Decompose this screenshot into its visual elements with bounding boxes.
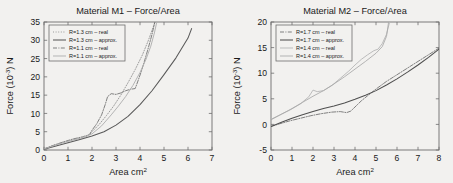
x-tick-label: 2 xyxy=(90,153,95,163)
y-tick-label: 20 xyxy=(257,17,267,27)
y-tick-label: 0 xyxy=(262,120,267,130)
plot-area-material-m2: Material M2 – Force/Area012345678-505101… xyxy=(227,0,453,183)
chart-title: Material M1 – Force/Area xyxy=(76,6,181,16)
y-tick-label: 5 xyxy=(35,127,40,137)
x-tick-label: 2 xyxy=(311,153,316,163)
x-tick-label: 0 xyxy=(269,153,274,163)
y-tick-label: 30 xyxy=(30,35,40,45)
x-tick-label: 1 xyxy=(290,153,295,163)
x-tick-label: 3 xyxy=(114,153,119,163)
y-tick-label: 0 xyxy=(35,145,40,155)
plot-area-material-m1: Material M1 – Force/Area0123456705101520… xyxy=(0,0,226,183)
y-tick-label: 35 xyxy=(30,17,40,27)
chart-material-m1: Material M1 – Force/Area0123456705101520… xyxy=(0,0,226,183)
legend-label: R=1.7 cm – approx. xyxy=(296,37,345,43)
y-tick-label: 20 xyxy=(30,72,40,82)
legend-label: R=1.7 cm – real xyxy=(296,29,335,35)
x-tick-label: 5 xyxy=(374,153,379,163)
y-tick-label: 10 xyxy=(257,68,267,78)
x-tick-label: 7 xyxy=(416,153,421,163)
y-axis-label: Force (10-3) N xyxy=(4,57,15,114)
legend-label: R=1.1 cm – real xyxy=(69,45,108,51)
legend-label: R=1.4 cm – real xyxy=(296,45,335,51)
x-tick-label: 4 xyxy=(353,153,358,163)
y-tick-label: 25 xyxy=(30,54,40,64)
x-tick-label: 6 xyxy=(186,153,191,163)
y-tick-label: 15 xyxy=(257,43,267,53)
y-tick-label: 5 xyxy=(262,94,267,104)
x-axis-label: Area cm2 xyxy=(109,166,147,177)
chart-title: Material M2 – Force/Area xyxy=(303,6,408,16)
x-tick-label: 0 xyxy=(42,153,47,163)
y-tick-label: -5 xyxy=(259,145,267,155)
legend-label: R=1.1 cm – approx. xyxy=(69,53,118,59)
legend-label: R=1.3 cm – real xyxy=(69,29,108,35)
x-tick-label: 7 xyxy=(210,153,215,163)
y-tick-label: 10 xyxy=(30,109,40,119)
x-tick-label: 1 xyxy=(66,153,71,163)
x-tick-label: 5 xyxy=(162,153,167,163)
legend-label: R=1.4 cm – approx. xyxy=(296,53,345,59)
x-axis-label: Area cm2 xyxy=(336,166,374,177)
chart-material-m2: Material M2 – Force/Area012345678-505101… xyxy=(227,0,453,183)
x-tick-label: 6 xyxy=(395,153,400,163)
y-axis-label: Force (10-3) N xyxy=(231,57,242,114)
x-tick-label: 3 xyxy=(332,153,337,163)
legend-label: R=1.3 cm – approx. xyxy=(69,37,118,43)
y-tick-label: 15 xyxy=(30,90,40,100)
x-tick-label: 8 xyxy=(437,153,442,163)
x-tick-label: 4 xyxy=(138,153,143,163)
